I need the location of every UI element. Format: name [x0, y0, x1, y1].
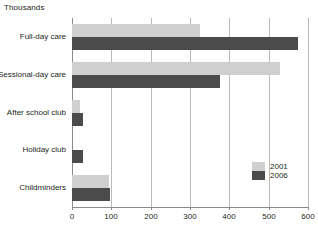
x-tick-mark-300 — [190, 207, 191, 210]
bar-2006-sessional-day-care — [72, 75, 220, 88]
category-label-after-school-club: After school club — [0, 108, 66, 118]
x-tick-mark-400 — [229, 207, 230, 210]
x-tick-label-600: 600 — [288, 212, 318, 222]
legend-label-2001: 2001 — [270, 162, 288, 171]
x-tick-mark-500 — [269, 207, 270, 210]
category-label-full-day-care: Full-day care — [0, 32, 66, 42]
legend-label-2006: 2006 — [270, 171, 288, 180]
bar-2006-childminders — [72, 188, 110, 201]
chart-title: Thousands — [4, 3, 44, 13]
x-tick-label-100: 100 — [91, 212, 131, 222]
legend-swatch-2006 — [252, 171, 265, 180]
chart-legend: 2001 2006 — [252, 162, 300, 186]
bar-2001-sessional-day-care — [72, 62, 280, 75]
bar-2006-after-school-club — [72, 113, 83, 126]
gridline-600 — [308, 18, 309, 207]
x-tick-mark-200 — [151, 207, 152, 210]
bar-2006-full-day-care — [72, 37, 298, 50]
bar-2006-holiday-club — [72, 150, 83, 163]
bar-chart: Thousands 0100200300400500600 Full-day c… — [0, 0, 318, 232]
x-tick-mark-600 — [308, 207, 309, 210]
bar-2001-full-day-care — [72, 24, 200, 37]
legend-swatch-2001 — [252, 162, 265, 171]
x-tick-label-400: 400 — [209, 212, 249, 222]
x-tick-label-500: 500 — [249, 212, 289, 222]
x-tick-label-300: 300 — [170, 212, 210, 222]
bar-2001-after-school-club — [72, 100, 80, 113]
x-tick-mark-0 — [72, 207, 73, 210]
x-tick-label-200: 200 — [131, 212, 171, 222]
category-label-childminders: Childminders — [0, 183, 66, 193]
category-label-sessional-day-care: Sessional-day care — [0, 70, 66, 80]
bar-2001-childminders — [72, 175, 109, 188]
category-label-holiday-club: Holiday club — [0, 145, 66, 155]
x-tick-mark-100 — [111, 207, 112, 210]
x-tick-label-0: 0 — [52, 212, 92, 222]
